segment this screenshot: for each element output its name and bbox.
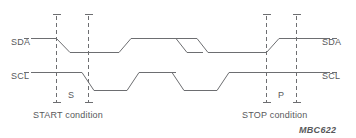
sda-label-right: SDA: [322, 37, 341, 47]
figure-code: MBC622: [299, 125, 336, 135]
sda-segment-start-fall: [31, 39, 119, 53]
scl-segment-pulse-1: [31, 73, 176, 91]
sda-segment-stop-rise: [267, 39, 331, 53]
start-marker-s: S: [68, 90, 74, 100]
sda-segment-data-bit-2: [152, 39, 267, 53]
timing-waveform-canvas: SDA SCL SDA SCL S P START condition STOP…: [0, 0, 356, 138]
scl-label-left: SCL: [11, 71, 29, 81]
stop-marker-p: P: [278, 90, 284, 100]
sda-segment-data-bit-1: [119, 39, 203, 53]
scl-label-right: SCL: [322, 71, 340, 81]
scl-segment-pulse-2: [152, 73, 330, 91]
start-condition-label: START condition: [33, 110, 103, 120]
stop-condition-label: STOP condition: [242, 110, 308, 120]
sda-waveform: [24, 39, 337, 53]
sda-label-left: SDA: [11, 37, 30, 47]
scl-waveform: [24, 73, 337, 91]
i2c-timing-diagram: SDA SCL SDA SCL S P START condition STOP…: [0, 0, 356, 138]
